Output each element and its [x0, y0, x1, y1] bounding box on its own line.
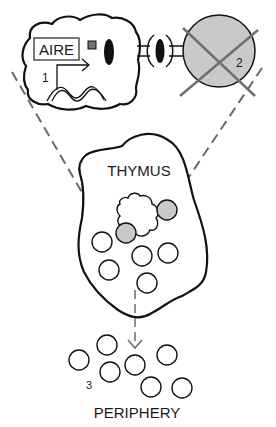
peripheral-t-cell [97, 335, 117, 355]
grey-antigen-square [88, 41, 96, 49]
periphery-label: PERIPHERY [94, 404, 180, 421]
tcr-bracket-right [166, 35, 173, 67]
thymocyte-circle [137, 273, 157, 293]
thymocyte-circle [158, 243, 178, 263]
thymocyte-circle [92, 232, 112, 252]
cell1-number: 1 [42, 71, 49, 85]
peripheral-t-cell [100, 362, 120, 382]
tcr-black-oval-icon [156, 39, 165, 63]
thymocyte-circle [99, 260, 119, 280]
arrow-head-icon [128, 340, 142, 348]
tcr-bracket-left [147, 35, 154, 67]
thymus-label: THYMUS [107, 162, 170, 179]
peripheral-t-cell [172, 378, 192, 398]
mhc-black-oval-icon [104, 39, 114, 65]
grey-thymocyte [116, 223, 136, 243]
diagram-canvas: AIRE 1 2 THYMUS 3 PERIPHERY [0, 0, 276, 427]
peripheral-t-cell [125, 355, 145, 375]
thymocyte-circle [132, 246, 152, 266]
aire-label: AIRE [39, 41, 74, 58]
periphery-number: 3 [86, 379, 92, 391]
t-cell-2-deleted [183, 15, 255, 87]
peripheral-t-cell [157, 345, 177, 365]
grey-thymocyte [157, 200, 177, 220]
peripheral-t-cell [141, 377, 161, 397]
cell2-number: 2 [236, 56, 243, 70]
peripheral-t-cell [69, 350, 89, 370]
